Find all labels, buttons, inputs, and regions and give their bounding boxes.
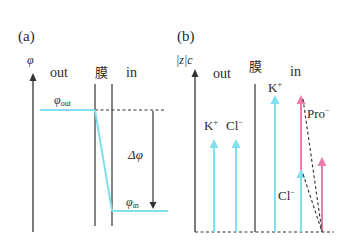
in-k-label: K+: [268, 80, 282, 95]
out-k-label: K+: [204, 118, 218, 133]
panel-b-label: (b): [177, 28, 195, 45]
region-membrane-label: 膜: [249, 59, 262, 74]
y-axis-arrow-icon: [192, 69, 199, 77]
membrane-potential-figure: (a) φ out 膜 in φout Δφ φin (b) |z|c: [0, 0, 354, 243]
panel-a: (a) φ out 膜 in φout Δφ φin: [18, 28, 168, 232]
phi-in-label: φin: [126, 195, 139, 210]
region-out-label: out: [50, 65, 68, 80]
out-k-arrowhead-icon: [210, 139, 219, 148]
in-k-arrowhead-icon: [271, 95, 280, 104]
delta-phi-label: Δφ: [127, 147, 143, 162]
region-out-label: out: [213, 66, 231, 81]
out-cl-arrowhead-icon: [232, 139, 241, 148]
region-membrane-label: 膜: [95, 65, 108, 80]
y-axis-arrow-icon: [30, 73, 37, 81]
delta-phi-arrowhead-icon: [150, 202, 157, 209]
in-pro-arrowhead-icon: [297, 95, 306, 104]
region-in-label: in: [290, 64, 301, 79]
shifted-pro-arrowhead-icon: [318, 157, 327, 166]
zc-axis-label: |z|c: [176, 53, 193, 67]
potential-drop-line: [95, 110, 112, 211]
cl-shift-dashed-line: [303, 174, 322, 232]
region-in-label: in: [126, 65, 137, 80]
out-cl-label: Cl−: [226, 118, 243, 133]
phi-axis-label: φ: [27, 53, 34, 67]
panel-a-label: (a): [18, 28, 35, 45]
panel-b: (b) |z|c out 膜 in K+ Cl− K+ Pro− Cl−: [176, 28, 334, 232]
in-pro-label: Pro−: [307, 106, 330, 121]
phi-out-label: φout: [54, 93, 72, 108]
in-cl-label: Cl−: [278, 188, 295, 203]
